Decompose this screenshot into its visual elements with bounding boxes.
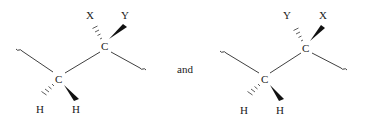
- atom-label-y: Y: [283, 9, 291, 21]
- atom-label-c-upper: C: [101, 40, 108, 52]
- wavy-end-icon: [16, 49, 22, 51]
- wedge-bond-icon: [109, 24, 127, 39]
- atom-label-x: X: [86, 9, 94, 21]
- stereo-diagram: C C X Y H H and C: [0, 0, 366, 126]
- atom-label-c-lower: C: [55, 73, 62, 85]
- bond-upper-c-to-right-wavy: [111, 52, 140, 68]
- atom-label-h-left: H: [240, 104, 248, 116]
- hashed-bond-icon: [248, 84, 261, 95]
- atom-label-c-upper: C: [302, 42, 309, 54]
- hashed-bond-icon: [42, 84, 55, 95]
- wavy-end-icon: [341, 68, 347, 70]
- bond-upper-c-to-right-wavy: [312, 53, 341, 68]
- atom-label-c-lower: C: [261, 73, 268, 85]
- atom-label-x: X: [319, 9, 327, 21]
- atom-label-h-right: H: [72, 103, 80, 115]
- structure-left: C C X Y H H: [16, 9, 146, 115]
- hashed-bond-icon: [294, 28, 304, 41]
- wedge-bond-icon: [64, 85, 79, 101]
- bond-left-wavy-to-lower-c: [226, 53, 259, 73]
- bond-lower-c-to-upper-c: [65, 52, 100, 73]
- conjunction-text: and: [177, 63, 193, 75]
- hashed-bond-icon: [93, 26, 103, 39]
- wavy-end-icon: [220, 51, 226, 53]
- wavy-end-icon: [140, 68, 146, 70]
- atom-label-h-left: H: [36, 103, 44, 115]
- bond-lower-c-to-upper-c: [270, 53, 301, 73]
- atom-label-h-right: H: [276, 104, 284, 116]
- atom-label-y: Y: [121, 9, 129, 21]
- wedge-bond-icon: [310, 25, 325, 41]
- bond-left-wavy-to-lower-c: [22, 51, 53, 72]
- wedge-bond-icon: [270, 85, 284, 101]
- structure-right: C C Y X H H: [220, 9, 347, 116]
